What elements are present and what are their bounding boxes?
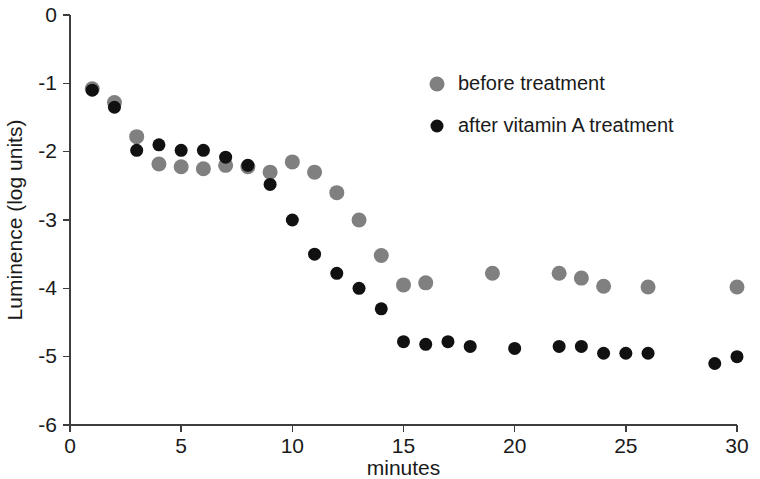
y-tick-label: 0 [45,3,57,26]
data-point-after-vitamin-a [241,159,254,172]
data-point-after-vitamin-a [286,214,299,227]
data-point-before-treatment [596,279,611,294]
legend-marker-before-treatment [430,77,445,92]
x-tick-label: 0 [64,434,76,457]
data-point-after-vitamin-a [175,144,188,157]
data-point-after-vitamin-a [575,340,588,353]
data-point-before-treatment [641,279,656,294]
y-tick-label: -2 [38,139,57,162]
data-point-before-treatment [329,185,344,200]
y-tick-label: -4 [38,276,57,299]
data-point-before-treatment [418,275,433,290]
data-point-after-vitamin-a [86,84,99,97]
data-point-before-treatment [174,159,189,174]
axis-ticks: 0-1-2-3-4-5-6051015202530 [38,3,748,458]
data-point-after-vitamin-a [508,342,521,355]
data-point-before-treatment [285,154,300,169]
data-point-after-vitamin-a [419,338,432,351]
data-point-after-vitamin-a [642,347,655,360]
x-tick-label: 20 [503,434,526,457]
data-point-before-treatment [730,279,745,294]
data-point-before-treatment [263,165,278,180]
chart-legend: before treatmentafter vitamin A treatmen… [430,72,675,136]
data-point-after-vitamin-a [264,178,277,191]
data-point-before-treatment [196,161,211,176]
x-tick-label: 5 [175,434,187,457]
y-axis-title: Luminence (log units) [3,120,26,321]
data-point-before-treatment [151,156,166,171]
data-point-after-vitamin-a [330,267,343,280]
data-point-before-treatment [396,277,411,292]
data-point-before-treatment [352,213,367,228]
data-point-after-vitamin-a [353,282,366,295]
data-point-after-vitamin-a [441,335,454,348]
x-tick-label: 25 [614,434,637,457]
legend-label-before-treatment: before treatment [458,72,605,94]
data-point-after-vitamin-a [397,335,410,348]
y-tick-label: -6 [38,413,57,436]
x-tick-label: 10 [281,434,304,457]
data-point-before-treatment [307,165,322,180]
data-point-after-vitamin-a [108,101,121,114]
y-tick-label: -1 [38,71,57,94]
legend-marker-after-vitamin-a [431,120,444,133]
data-point-after-vitamin-a [731,350,744,363]
y-tick-label: -3 [38,208,57,231]
data-point-after-vitamin-a [619,347,632,360]
y-tick-label: -5 [38,344,57,367]
data-point-before-treatment [374,248,389,263]
axes [70,15,737,425]
data-point-after-vitamin-a [375,302,388,315]
x-tick-label: 30 [725,434,748,457]
data-point-after-vitamin-a [219,151,232,164]
data-point-after-vitamin-a [308,248,321,261]
series-before-treatment-points [85,81,745,294]
data-point-before-treatment [574,271,589,286]
legend-label-after-vitamin-a: after vitamin A treatment [458,114,674,136]
data-point-before-treatment [129,129,144,144]
data-point-after-vitamin-a [597,347,610,360]
x-axis-title: minutes [367,456,441,479]
data-point-after-vitamin-a [708,357,721,370]
data-point-after-vitamin-a [553,340,566,353]
x-tick-label: 15 [392,434,415,457]
chart-canvas: 0-1-2-3-4-5-6051015202530 before treatme… [0,0,760,479]
data-point-after-vitamin-a [130,144,143,157]
data-point-before-treatment [552,266,567,281]
data-point-after-vitamin-a [152,138,165,151]
data-point-after-vitamin-a [197,144,210,157]
scatter-chart-figure: 0-1-2-3-4-5-6051015202530 before treatme… [0,0,760,479]
data-point-after-vitamin-a [464,340,477,353]
data-point-before-treatment [485,266,500,281]
